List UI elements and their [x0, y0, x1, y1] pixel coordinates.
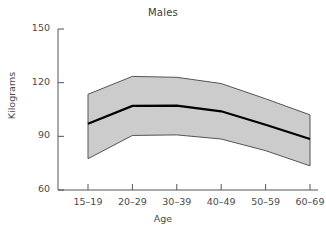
x-tick-label: 15–19	[65, 196, 111, 207]
y-axis-title: Kilograms	[6, 61, 17, 131]
x-tick-label: 40–49	[198, 196, 244, 207]
confidence-band	[88, 76, 310, 165]
x-tick-label: 30–39	[154, 196, 200, 207]
x-tick-label: 20–29	[109, 196, 155, 207]
x-tick-marks	[88, 184, 310, 190]
y-tick-marks	[58, 29, 64, 190]
y-tick-label: 120	[18, 76, 50, 87]
y-tick-label: 60	[18, 183, 50, 194]
chart-figure: Males 1501209060 15–1920–2930–3940–4950–…	[0, 0, 326, 238]
x-tick-label: 50–59	[243, 196, 289, 207]
y-tick-label: 150	[18, 22, 50, 33]
x-axis-title: Age	[0, 213, 326, 224]
x-tick-label: 60–69	[287, 196, 326, 207]
y-tick-label: 90	[18, 129, 50, 140]
